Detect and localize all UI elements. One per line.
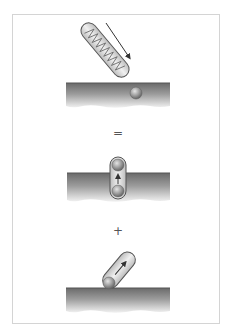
lower-ball-icon (112, 185, 124, 197)
panel-3 (66, 249, 170, 313)
equals-symbol: = (113, 126, 123, 140)
plus-symbol: + (113, 224, 123, 238)
diagram-canvas: = + (0, 0, 226, 335)
panel-1 (66, 20, 170, 108)
surface-slab (66, 288, 170, 313)
surface-ball-icon (130, 87, 142, 99)
anchored-ball-icon (103, 277, 115, 289)
surface-slab (66, 83, 170, 108)
panel-2 (67, 157, 170, 202)
upper-ball-icon (112, 159, 124, 171)
